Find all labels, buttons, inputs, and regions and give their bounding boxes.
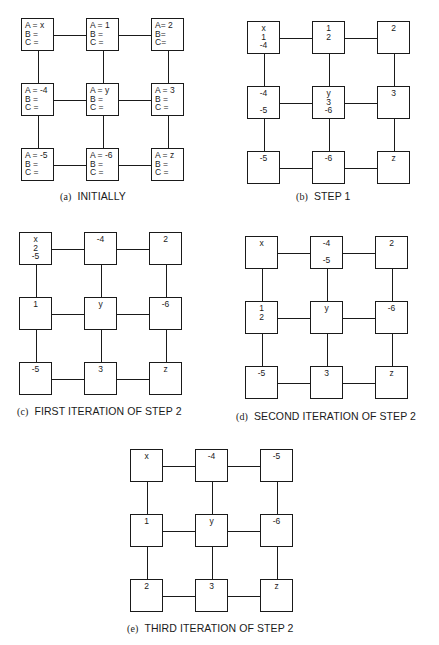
horizontal-link (345, 38, 377, 39)
node-value: 3 (311, 369, 342, 378)
processor-node: -4 (84, 232, 117, 265)
caption-tag: (e) (127, 623, 138, 634)
horizontal-link (278, 253, 310, 254)
horizontal-link (54, 100, 86, 101)
vertical-link (166, 330, 167, 362)
node-value: 2 (150, 235, 181, 244)
horizontal-link (280, 38, 312, 39)
processor-node: y (195, 514, 228, 547)
processor-node: x 1 -4 (247, 21, 280, 54)
processor-node: -4 -5 (310, 236, 343, 269)
vertical-link (392, 269, 393, 301)
caption-tag: (a) (60, 191, 71, 202)
caption-text: THIRD ITERATION OF STEP 2 (144, 622, 293, 634)
caption-tag: (d) (236, 411, 248, 422)
node-value: A = z B = C = (155, 151, 183, 177)
vertical-link (262, 334, 263, 366)
node-value: y 3 -6 (313, 89, 344, 115)
node-value: -5 (261, 452, 292, 461)
processor-node: 1 (19, 297, 52, 330)
node-value: 2 (378, 24, 409, 33)
processor-node: -4 -5 (247, 86, 280, 119)
processor-node: -6 (312, 151, 345, 184)
vertical-link (168, 116, 169, 148)
horizontal-link (119, 100, 151, 101)
node-value: -4 (85, 235, 116, 244)
horizontal-link (278, 318, 310, 319)
vertical-link (101, 330, 102, 362)
node-value: A = -6 B = C = (90, 151, 118, 177)
processor-node: A = x B = C = (21, 18, 54, 51)
caption-text: INITIALLY (77, 190, 126, 202)
node-value: y (85, 300, 116, 309)
processor-node: 3 (195, 579, 228, 612)
processor-node: y (310, 301, 343, 334)
vertical-link (329, 119, 330, 151)
horizontal-link (278, 383, 310, 384)
processor-node: x (130, 449, 163, 482)
panel-caption: (e)THIRD ITERATION OF STEP 2 (127, 622, 294, 634)
node-value: y (311, 304, 342, 313)
vertical-link (264, 54, 265, 86)
horizontal-link (163, 531, 195, 532)
processor-node: 2 (149, 232, 182, 265)
processor-node: x (245, 236, 278, 269)
horizontal-link (54, 165, 86, 166)
processor-node: y 3 -6 (312, 86, 345, 119)
node-value: -6 (376, 304, 407, 313)
node-value: A= 2 B= C= (155, 21, 183, 47)
panel-caption: (c)FIRST ITERATION OF STEP 2 (17, 405, 182, 417)
processor-node: A = 3 B = C = (151, 83, 184, 116)
processor-node: 2 (375, 236, 408, 269)
node-value: x (131, 452, 162, 461)
node-value: z (376, 369, 407, 378)
processor-node: A = -4 B = C = (21, 83, 54, 116)
node-value: -4 (196, 452, 227, 461)
vertical-link (147, 482, 148, 514)
node-value: 1 2 (313, 24, 344, 41)
processor-node: -6 (375, 301, 408, 334)
processor-node: -5 (260, 449, 293, 482)
horizontal-link (345, 103, 377, 104)
vertical-link (38, 51, 39, 83)
horizontal-link (52, 249, 84, 250)
node-value: z (150, 365, 181, 374)
node-value: x (246, 239, 277, 248)
vertical-link (394, 54, 395, 86)
processor-node: -4 (195, 449, 228, 482)
processor-node: z (149, 362, 182, 395)
node-value: A = x B = C = (25, 21, 53, 47)
processor-node: 3 (310, 366, 343, 399)
vertical-link (262, 269, 263, 301)
horizontal-link (54, 35, 86, 36)
node-value: -5 (248, 154, 279, 163)
horizontal-link (228, 531, 260, 532)
vertical-link (212, 482, 213, 514)
processor-node: A = y B = C = (86, 83, 119, 116)
node-value: y (196, 517, 227, 526)
processor-node: A = 1 B = C = (86, 18, 119, 51)
node-value: 1 (131, 517, 162, 526)
processor-node: 1 2 (312, 21, 345, 54)
node-value: A = 3 B = C = (155, 86, 183, 112)
vertical-link (392, 334, 393, 366)
processor-node: 2 (130, 579, 163, 612)
horizontal-link (280, 168, 312, 169)
horizontal-link (119, 35, 151, 36)
processor-node: y (84, 297, 117, 330)
node-value: -6 (261, 517, 292, 526)
node-value: z (378, 154, 409, 163)
horizontal-link (228, 466, 260, 467)
node-value: 1 2 (246, 304, 277, 321)
horizontal-link (163, 596, 195, 597)
node-value: -4 -5 (311, 239, 342, 265)
vertical-link (277, 482, 278, 514)
panel-caption: (d)SECOND ITERATION OF STEP 2 (236, 410, 416, 422)
node-value: A = -5 B = C = (25, 151, 53, 177)
vertical-link (36, 330, 37, 362)
processor-node: x 2 -5 (19, 232, 52, 265)
processor-node: A = -6 B = C = (86, 148, 119, 181)
caption-tag: (c) (17, 406, 28, 417)
vertical-link (36, 265, 37, 297)
node-value: x 1 -4 (248, 24, 279, 50)
